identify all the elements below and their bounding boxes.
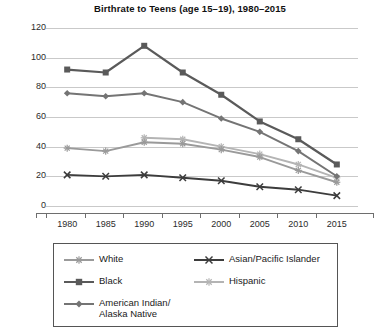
y-axis-tick-label: 40 (12, 141, 46, 151)
legend-label: Hispanic (229, 275, 265, 286)
legend-marker-x-icon (194, 254, 224, 265)
legend-item-asian[interactable]: Asian/Pacific Islander (194, 253, 320, 265)
legend-item-white[interactable]: White (64, 253, 123, 265)
y-axis-tick-label: 100 (12, 52, 46, 62)
data-point-square-marker (76, 279, 82, 285)
legend-marker-diamond-icon (64, 298, 94, 309)
x-axis-tick-mark (316, 213, 317, 218)
grid-line (46, 206, 358, 207)
legend-marker-square-icon (64, 276, 94, 287)
x-axis-tick-label: 2005 (240, 219, 280, 229)
legend-marker-star-icon (64, 254, 94, 265)
chart-legend: WhiteBlackAmerican Indian/ Alaska Native… (53, 243, 338, 327)
y-axis-tick-label: 20 (12, 170, 46, 180)
legend-item-american-indian[interactable]: American Indian/ Alaska Native (64, 297, 170, 319)
chart-container: Birthrate to Teens (age 15–19), 1980–201… (0, 0, 380, 332)
x-axis-tick-mark (277, 213, 278, 218)
grid-line (46, 117, 358, 118)
data-point-x-marker (206, 257, 213, 264)
x-axis-tick-label: 1990 (124, 219, 164, 229)
y-axis-tick-label: 80 (12, 81, 46, 91)
legend-label: American Indian/ Alaska Native (99, 297, 170, 319)
x-axis-tick-label: 1980 (47, 219, 87, 229)
x-axis-tick-mark (200, 213, 201, 218)
y-axis-tick-label: 60 (12, 111, 46, 121)
legend-label: White (99, 253, 123, 264)
data-point-star-marker (75, 256, 83, 264)
x-axis-line (36, 213, 373, 214)
y-axis-tick-label: 120 (12, 22, 46, 32)
grid-line (46, 147, 358, 148)
x-axis-tick-label: 2010 (278, 219, 318, 229)
grid-line (46, 28, 358, 29)
x-axis-tick-mark (239, 213, 240, 218)
x-axis-tick-mark (36, 213, 37, 218)
legend-item-hispanic[interactable]: Hispanic (194, 275, 265, 287)
grid-line (46, 87, 358, 88)
legend-label: Asian/Pacific Islander (229, 253, 320, 264)
x-axis-tick-mark (373, 213, 374, 218)
x-axis-tick-mark (85, 213, 86, 218)
chart-title: Birthrate to Teens (age 15–19), 1980–201… (0, 3, 380, 14)
x-axis-tick-label: 2015 (317, 219, 357, 229)
data-point-plus-marker (205, 278, 213, 286)
x-axis-tick-mark (46, 213, 47, 218)
x-axis-tick-label: 1985 (86, 219, 126, 229)
x-axis-tick-label: 1995 (163, 219, 203, 229)
y-axis-tick-label: 0 (12, 200, 46, 210)
grid-line (46, 58, 358, 59)
legend-marker-plus-icon (194, 276, 224, 287)
plot-area (46, 28, 358, 206)
x-axis-tick-mark (162, 213, 163, 218)
x-axis-tick-label: 2000 (201, 219, 241, 229)
grid-line (46, 176, 358, 177)
legend-label: Black (99, 275, 122, 286)
data-point-diamond-marker (76, 301, 83, 308)
legend-item-black[interactable]: Black (64, 275, 122, 287)
x-axis-tick-mark (123, 213, 124, 218)
